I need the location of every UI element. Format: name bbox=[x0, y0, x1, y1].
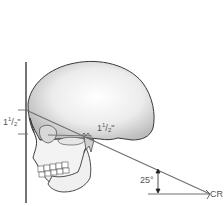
angle-arrow-icon bbox=[156, 169, 160, 193]
angle-label: 25° bbox=[140, 176, 154, 185]
left-distance-label: 11/2" bbox=[3, 116, 20, 127]
central-ray-label: CR bbox=[210, 190, 223, 199]
diagram-canvas bbox=[0, 0, 224, 206]
skull-diagram: 11/2" 11/2" 25° CR bbox=[0, 0, 224, 206]
ear-distance-unit: " bbox=[111, 123, 114, 133]
zygomatic-arch bbox=[58, 137, 84, 145]
left-distance-unit: " bbox=[17, 117, 20, 127]
ear-distance-label: 11/2" bbox=[97, 122, 114, 133]
left-distance-numerator: 1 bbox=[8, 116, 11, 122]
ear-distance-numerator: 1 bbox=[102, 122, 105, 128]
